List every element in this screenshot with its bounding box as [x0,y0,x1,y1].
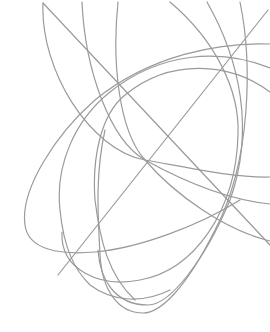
diagonal-line-1 [43,3,270,245]
line-art-drawing [0,0,270,332]
arc-5 [98,2,242,305]
line-art-canvas [0,0,270,332]
arc-3 [116,2,270,241]
arc-2 [82,2,270,204]
loop-2 [59,56,270,299]
arc-6 [98,2,247,313]
diagonal-line-2 [58,10,268,275]
